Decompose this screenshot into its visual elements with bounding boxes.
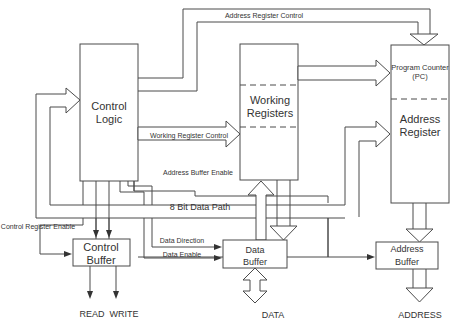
data-direction-line (152, 218, 222, 250)
address-buffer-label-2: Buffer (395, 257, 419, 267)
ar-to-address-buffer-arrow (406, 203, 433, 242)
address-register-input-arrow (345, 121, 390, 217)
working-registers-label-2: Registers (247, 107, 294, 119)
data-label: DATA (262, 310, 285, 320)
read-write-arrows (87, 266, 119, 299)
data-buffer-label-2: Buffer (243, 257, 267, 267)
wr-data-buffer-bus (248, 180, 297, 240)
data-buffer-label-1: Data (245, 245, 264, 255)
address-output-arrow (406, 269, 433, 302)
control-register-enable-label: Control Register Enable (1, 223, 75, 231)
address-label: ADDRESS (398, 310, 442, 320)
address-buffer-label-1: Address (390, 244, 424, 254)
control-logic-label-1: Control (91, 100, 126, 112)
address-buffer-enable-label: Address Buffer Enable (163, 169, 233, 176)
working-register-control-label: Working Register Control (150, 132, 229, 140)
program-counter-label-1: Program Counter (391, 63, 449, 72)
control-buffer-label-1: Control (83, 241, 118, 253)
control-buffer-inputs (93, 218, 112, 238)
read-label: READ (79, 309, 105, 319)
data-enable-label: Data Enable (163, 251, 202, 258)
address-buffer-enable-arrow (328, 218, 375, 260)
address-register-label-2: Register (400, 126, 441, 138)
data-direction-label: Data Direction (160, 237, 204, 244)
control-logic-label-2: Logic (96, 113, 123, 125)
block-diagram: Control Logic Working Registers Program … (0, 0, 475, 323)
control-logic-input-arrow (36, 88, 80, 218)
wr-to-pc-arrow (298, 60, 390, 86)
address-register-label-1: Address (400, 113, 441, 125)
data-path-label: 8 Bit Data Path (170, 202, 231, 212)
program-counter-label-2: (PC) (412, 72, 428, 81)
write-label: WRITE (110, 309, 139, 319)
working-registers-label-1: Working (250, 94, 290, 106)
address-register-control-label: Address Register Control (225, 12, 304, 20)
data-bidirectional-arrow (243, 268, 267, 303)
control-buffer-label-2: Buffer (86, 254, 115, 266)
